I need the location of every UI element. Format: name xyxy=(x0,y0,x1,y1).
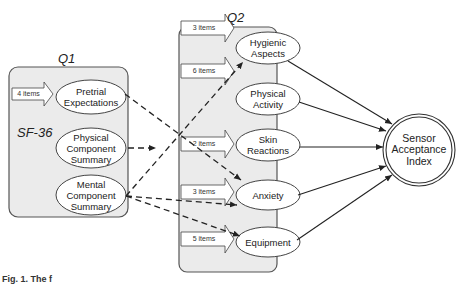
edge-anxiety-to-outcome xyxy=(298,166,386,195)
label-line: Activity xyxy=(253,99,283,110)
edge-equipment-to-outcome xyxy=(297,175,392,240)
label-line: Physical xyxy=(73,132,108,143)
label-skin-reactions: Skin Reactions xyxy=(238,134,298,156)
edge-physical-activity-to-outcome xyxy=(299,102,386,131)
label-line: Reactions xyxy=(247,145,289,156)
items-count-hygienic: 3 items xyxy=(183,24,225,31)
items-count-equipment: 5 items xyxy=(183,235,225,242)
label-anxiety: Anxiety xyxy=(238,189,298,201)
label-line: Expectations xyxy=(64,97,118,108)
label-equipment: Equipment xyxy=(238,236,298,248)
items-count-anxiety: 3 items xyxy=(183,188,225,195)
label-line: Aspects xyxy=(251,48,285,59)
label-line: Component xyxy=(66,143,115,154)
q1-subtitle-sf36: SF-36 xyxy=(17,125,52,140)
q2-title: Q2 xyxy=(227,10,244,25)
label-line: Summary xyxy=(71,201,112,212)
edge-hygienic-to-outcome xyxy=(288,61,392,124)
label-hygienic-aspects: Hygienic Aspects xyxy=(238,37,298,59)
items-count-pretrial: 4 items xyxy=(13,90,44,97)
label-line: Anxiety xyxy=(252,190,283,201)
label-physical-component-summary: Physical Component Summary xyxy=(58,132,124,165)
label-line: Hygienic xyxy=(250,37,286,48)
label-physical-activity: Physical Activity xyxy=(238,88,298,110)
label-line: Equipment xyxy=(245,237,290,248)
label-pretrial-expectations: Pretrial Expectations xyxy=(58,86,124,108)
label-mental-component-summary: Mental Component Summary xyxy=(58,179,124,212)
label-line: Component xyxy=(66,190,115,201)
q1-title: Q1 xyxy=(58,51,75,66)
items-count-skin: 2 items xyxy=(183,140,225,147)
label-line: Index xyxy=(406,156,432,168)
label-line: Physical xyxy=(250,88,285,99)
label-line: Skin xyxy=(259,134,277,145)
label-line: Pretrial xyxy=(76,86,106,97)
items-count-physical-activity: 6 items xyxy=(183,67,225,74)
label-sensor-acceptance-index: Sensor Acceptance Index xyxy=(387,133,451,167)
label-line: Summary xyxy=(71,154,112,165)
figure-caption: Fig. 1. The f xyxy=(2,274,52,284)
label-line: Mental xyxy=(77,179,106,190)
